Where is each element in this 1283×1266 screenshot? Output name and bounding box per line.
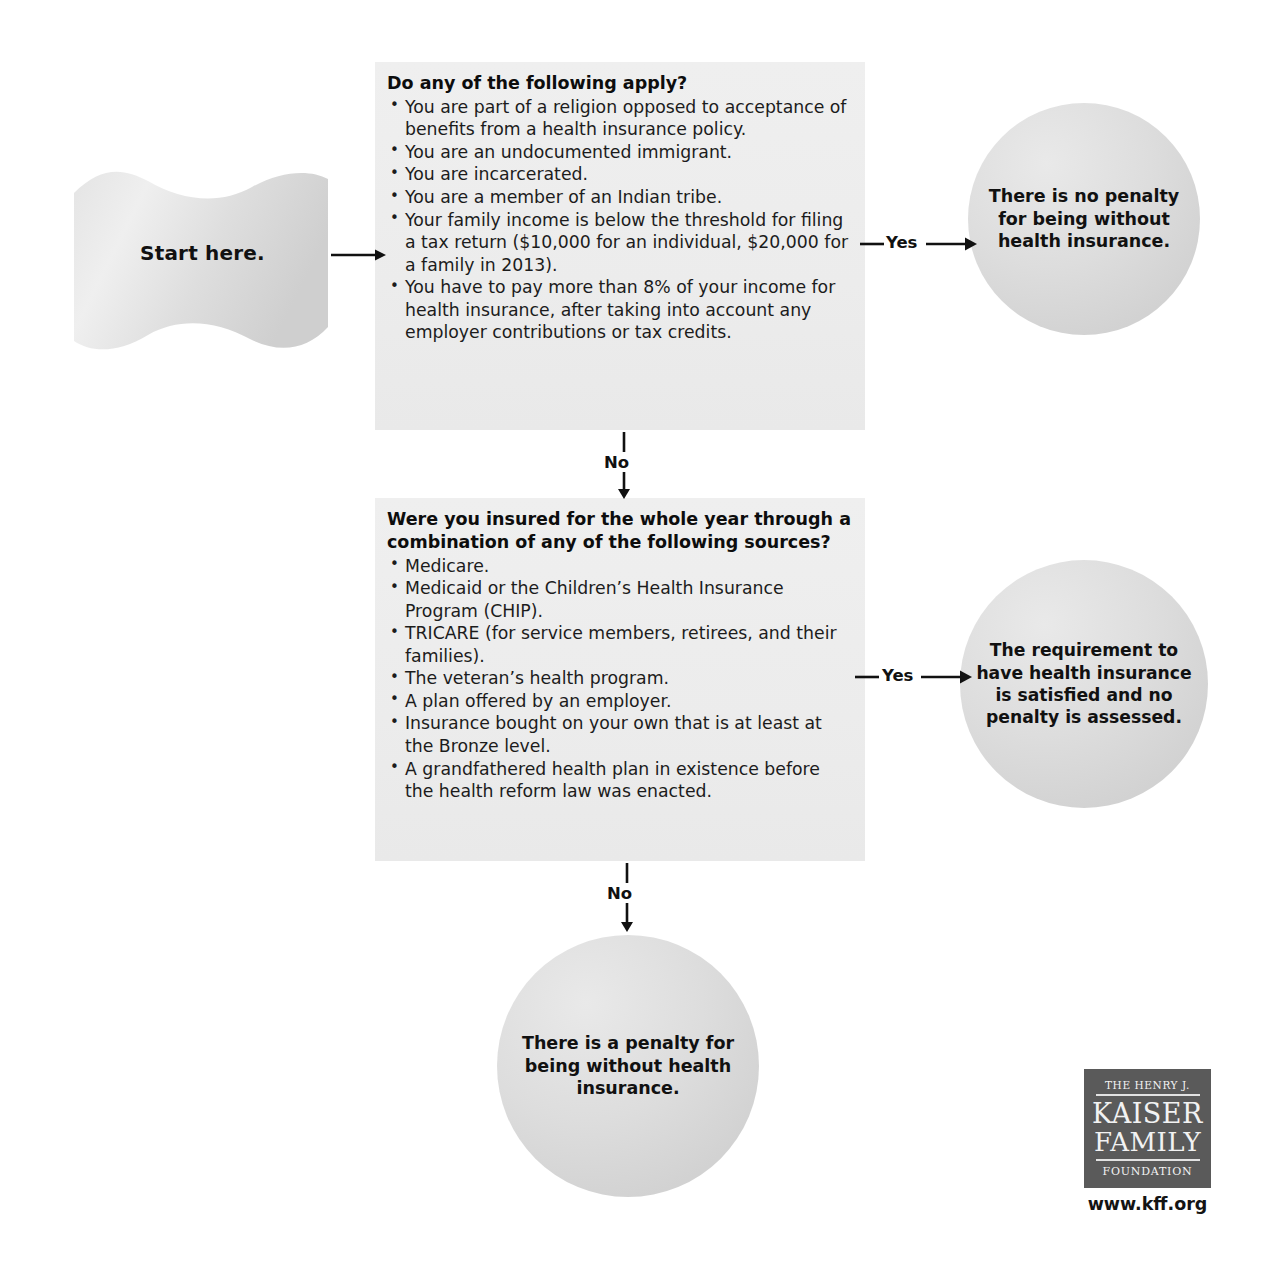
bullet-icon: • [390, 622, 399, 643]
question-2-title: Were you insured for the whole year thro… [387, 508, 851, 554]
kff-website-url[interactable]: www.kff.org [1084, 1194, 1211, 1214]
list-item: •A plan offered by an employer. [387, 690, 851, 713]
outcome-circle-penalty: There is a penalty for being without hea… [497, 935, 759, 1197]
bullet-icon: • [390, 186, 399, 207]
start-shape: Start here. [70, 165, 335, 355]
list-item-text: You are an undocumented immigrant. [405, 142, 732, 162]
outcome-circle-requirement-satisfied: The requirement to have health insurance… [960, 560, 1208, 808]
bullet-icon: • [390, 276, 399, 297]
list-item-text: Insurance bought on your own that is at … [405, 713, 822, 756]
question-1-list: •You are part of a religion opposed to a… [387, 96, 851, 344]
arrow-yes-to-outcome-1 [860, 233, 978, 255]
list-item-text: You are a member of an Indian tribe. [405, 187, 722, 207]
list-item-text: You are incarcerated. [405, 164, 588, 184]
bullet-icon: • [390, 757, 399, 778]
question-box-2: Were you insured for the whole year thro… [375, 498, 865, 861]
logo-divider-bottom [1096, 1159, 1200, 1161]
bullet-icon: • [390, 163, 399, 184]
bullet-icon: • [390, 208, 399, 229]
edge-label-no-1: No [604, 455, 629, 472]
list-item-text: You are part of a religion opposed to ac… [405, 97, 846, 140]
edge-label-no-2: No [607, 886, 632, 903]
list-item-text: A plan offered by an employer. [405, 691, 671, 711]
list-item: •The veteran’s health program. [387, 667, 851, 690]
logo-divider-top [1096, 1094, 1200, 1096]
logo-line-2: KAISER [1092, 1100, 1203, 1127]
start-label: Start here. [70, 241, 335, 265]
list-item-text: Medicaid or the Children’s Health Insura… [405, 578, 784, 621]
list-item-text: A grandfathered health plan in existence… [405, 759, 820, 802]
kff-logo: THE HENRY J. KAISER FAMILY FOUNDATION ww… [1084, 1069, 1211, 1214]
list-item: •You are an undocumented immigrant. [387, 141, 851, 164]
question-2-list: •Medicare. •Medicaid or the Children’s H… [387, 555, 851, 803]
list-item: •TRICARE (for service members, retirees,… [387, 622, 851, 667]
bullet-icon: • [390, 712, 399, 733]
list-item: •Medicaid or the Children’s Health Insur… [387, 577, 851, 622]
outcome-text: There is a penalty for being without hea… [497, 1032, 759, 1100]
logo-line-1: THE HENRY J. [1105, 1080, 1190, 1091]
arrow-yes-to-outcome-2 [855, 666, 973, 688]
list-item: •Insurance bought on your own that is at… [387, 712, 851, 757]
outcome-text: There is no penalty for being without he… [968, 185, 1200, 253]
question-box-1: Do any of the following apply? •You are … [375, 62, 865, 430]
list-item-text: The veteran’s health program. [405, 668, 669, 688]
kff-logo-mark: THE HENRY J. KAISER FAMILY FOUNDATION [1084, 1069, 1211, 1188]
logo-line-3: FAMILY [1094, 1129, 1201, 1155]
question-1-title: Do any of the following apply? [387, 72, 851, 95]
bullet-icon: • [390, 577, 399, 598]
list-item-text: Your family income is below the threshol… [405, 210, 848, 275]
list-item: •You have to pay more than 8% of your in… [387, 276, 851, 344]
outcome-text: The requirement to have health insurance… [960, 639, 1208, 728]
list-item: •You are incarcerated. [387, 163, 851, 186]
bullet-icon: • [390, 554, 399, 575]
outcome-circle-no-penalty: There is no penalty for being without he… [968, 103, 1200, 335]
edge-label-yes-2: Yes [882, 668, 913, 685]
list-item-text: TRICARE (for service members, retirees, … [405, 623, 837, 666]
bullet-icon: • [390, 140, 399, 161]
list-item: •You are a member of an Indian tribe. [387, 186, 851, 209]
logo-line-4: FOUNDATION [1102, 1166, 1192, 1177]
list-item-text: You have to pay more than 8% of your inc… [405, 277, 835, 342]
list-item: •You are part of a religion opposed to a… [387, 96, 851, 141]
edge-label-yes-1: Yes [886, 235, 917, 252]
list-item: •A grandfathered health plan in existenc… [387, 758, 851, 803]
list-item: •Medicare. [387, 555, 851, 578]
bullet-icon: • [390, 667, 399, 688]
bullet-icon: • [390, 95, 399, 116]
list-item-text: Medicare. [405, 556, 489, 576]
list-item: •Your family income is below the thresho… [387, 209, 851, 277]
bullet-icon: • [390, 689, 399, 710]
arrow-start-to-question-1 [331, 248, 387, 262]
